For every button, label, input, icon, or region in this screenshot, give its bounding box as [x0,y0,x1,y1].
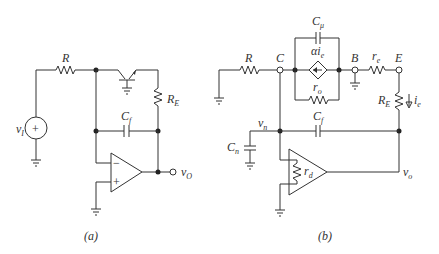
wire [96,182,111,209]
label-vO: vO [181,165,192,181]
wire [280,73,289,160]
source-plus-sign: + [32,122,39,136]
caption-b: (b) [318,229,332,243]
opamp-minus: − [113,156,120,170]
label-alpha-ie: αie [311,44,325,60]
ground-icon [214,98,224,104]
resistor-rd-icon [289,160,301,184]
node-B-terminal [352,67,358,73]
wire [136,70,158,88]
node-C-terminal [277,67,283,73]
ground-icon [350,83,360,89]
resistor-re-icon [358,66,396,74]
transistor-icon [118,70,136,94]
label-E: E [394,51,403,65]
label-ie: ie [414,93,421,109]
capacitor-Cn-icon [244,131,280,163]
circuit-a: + vI R RE Cf − [16,51,192,243]
node-E-terminal [396,67,402,73]
resistor-R-icon [219,66,277,98]
capacitor-Cf-icon [96,125,158,137]
current-arrow-ie-icon [406,94,412,108]
capacitor-Cf-icon [280,125,399,137]
ground-icon [245,163,255,169]
label-rd: rd [304,164,314,180]
label-RE: RE [377,93,390,109]
resistor-R-icon [36,66,96,74]
label-B: B [351,51,359,65]
label-R: R [61,51,70,65]
wire [96,70,111,163]
node-dot [156,170,161,175]
caption-a: (a) [84,229,98,243]
label-R: R [244,51,253,65]
label-ro: ro [313,80,322,96]
ground-icon [275,210,285,216]
circuit-diagrams: + vI R RE Cf − [0,0,439,254]
label-Cf: Cf [313,109,325,125]
ground-icon [31,160,41,166]
label-RE: RE [166,92,179,108]
wire [280,184,289,210]
label-Cmu: Cμ [312,14,324,30]
opamp-plus: + [113,175,120,189]
label-Cf: Cf [121,109,133,125]
label-vn: vn [258,116,267,132]
ground-icon [91,209,101,215]
resistor-RE-icon [154,88,162,131]
label-re: re [372,49,381,65]
output-terminal [170,169,176,175]
label-vo: vo [403,165,412,181]
label-vI: vI [16,122,24,138]
circuit-b: R C Cμ αie ro B re E RE [214,14,421,243]
resistor-RE-icon [395,73,403,172]
label-Cn: Cn [227,140,239,156]
arrow-head-icon [313,67,317,73]
label-C: C [276,51,285,65]
